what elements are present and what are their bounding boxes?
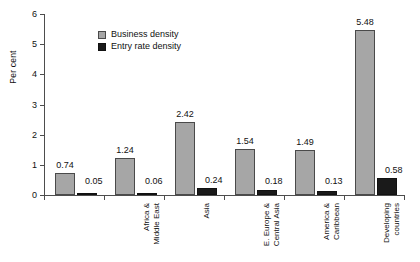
x-tick-mark (404, 195, 405, 200)
y-tick-label: 4 (32, 70, 37, 79)
bar-chart: Per cent 0123456 0.741.242.421.541.495.4… (0, 0, 420, 262)
y-tick-mark (40, 14, 44, 15)
x-tick-mark (224, 195, 225, 200)
x-tick-mark (344, 195, 345, 200)
x-tick-mark (284, 195, 285, 200)
y-tick-label: 3 (32, 100, 37, 109)
bar-business-density (115, 158, 135, 195)
y-axis-line (44, 14, 45, 196)
x-category-label: Asia (202, 203, 212, 261)
bar-value-label: 0.74 (56, 161, 74, 170)
bar-value-label: 0.05 (85, 177, 103, 186)
y-tick-mark (40, 135, 44, 136)
y-tick-mark (40, 44, 44, 45)
bar-value-label: 0.24 (205, 176, 223, 185)
bar-value-label: 0.06 (145, 177, 163, 186)
bar-business-density (235, 149, 255, 195)
bar-entry-rate-density (197, 188, 217, 195)
y-tick-label: 6 (32, 10, 37, 19)
legend-label-business-density: Business density (111, 29, 179, 41)
bar-business-density (295, 150, 315, 195)
bar-value-label: 1.49 (296, 138, 314, 147)
bar-business-density (55, 173, 75, 195)
bar-value-label: 2.42 (176, 110, 194, 119)
legend-label-entry-rate-density: Entry rate density (111, 41, 181, 53)
legend-swatch-entry-rate-density (98, 43, 106, 51)
legend: Business density Entry rate density (98, 29, 181, 53)
bar-entry-rate-density (317, 191, 337, 195)
bar-business-density (355, 30, 375, 195)
legend-item-business-density: Business density (98, 29, 181, 41)
x-tick-mark (44, 195, 45, 200)
bar-value-label: 1.24 (116, 146, 134, 155)
plot-area: 0123456 0.741.242.421.541.495.480.050.06… (44, 14, 404, 196)
x-tick-mark (164, 195, 165, 200)
bar-entry-rate-density (257, 190, 277, 195)
bar-entry-rate-density (137, 193, 157, 196)
y-tick-mark (40, 165, 44, 166)
bar-entry-rate-density (77, 193, 97, 196)
y-tick-label: 5 (32, 40, 37, 49)
bar-value-label: 5.48 (356, 18, 374, 27)
y-tick-mark (40, 105, 44, 106)
bar-business-density (175, 122, 195, 195)
x-category-label: E. Europe & Central Asia (262, 203, 281, 261)
x-category-label: Africa & Middle East (142, 203, 161, 261)
y-tick-label: 2 (32, 130, 37, 139)
y-tick-label: 0 (32, 191, 37, 200)
legend-swatch-business-density (98, 31, 106, 39)
legend-item-entry-rate-density: Entry rate density (98, 41, 181, 53)
bar-value-label: 1.54 (236, 137, 254, 146)
x-tick-mark (104, 195, 105, 200)
y-axis-title: Per cent (8, 36, 18, 98)
x-category-label: Developing countries (382, 203, 401, 261)
y-tick-label: 1 (32, 160, 37, 169)
bar-value-label: 0.18 (265, 177, 283, 186)
bar-entry-rate-density (377, 178, 397, 195)
y-tick-mark (40, 74, 44, 75)
x-category-label: America & Caribbean (322, 203, 341, 261)
bar-value-label: 0.13 (325, 177, 343, 186)
bar-value-label: 0.58 (385, 166, 403, 175)
